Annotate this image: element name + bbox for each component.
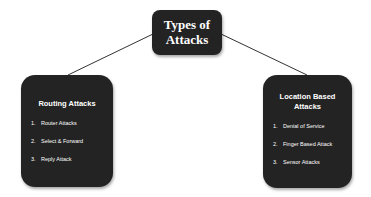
item-number: 3.: [273, 159, 283, 165]
item-number: 3.: [31, 156, 41, 162]
routing-attacks-list: 1.Router Attacks 2.Select & Forward 3.Re…: [21, 120, 113, 162]
root-node-types-of-attacks: Types of Attacks: [152, 10, 222, 55]
item-number: 1.: [31, 120, 41, 126]
list-item: 1.Denial of Service: [273, 123, 352, 129]
location-attacks-title: Location Based Attacks: [263, 92, 352, 112]
title-line2: Attacks: [263, 102, 352, 112]
node-location-based-attacks: Location Based Attacks 1.Denial of Servi…: [263, 75, 352, 188]
root-title-line2: Attacks: [152, 32, 222, 47]
item-label: Reply Attack: [41, 156, 72, 162]
item-number: 2.: [273, 141, 283, 147]
title-line1: Location Based: [263, 92, 352, 102]
root-title-line1: Types of: [152, 17, 222, 32]
item-number: 1.: [273, 123, 283, 129]
list-item: 3.Sensor Attacks: [273, 159, 352, 165]
item-label: Select & Forward: [41, 138, 83, 144]
item-label: Denial of Service: [283, 123, 325, 129]
connector-routing: [68, 34, 153, 75]
list-item: 2.Select & Forward: [31, 138, 113, 144]
item-label: Sensor Attacks: [283, 159, 320, 165]
location-attacks-list: 1.Denial of Service 2.Finger Based Attac…: [263, 123, 352, 165]
item-label: Router Attacks: [41, 120, 77, 126]
item-number: 2.: [31, 138, 41, 144]
list-item: 3.Reply Attack: [31, 156, 113, 162]
list-item: 1.Router Attacks: [31, 120, 113, 126]
connector-location: [221, 34, 307, 75]
node-routing-attacks: Routing Attacks 1.Router Attacks 2.Selec…: [21, 75, 113, 187]
routing-attacks-title: Routing Attacks: [21, 99, 113, 109]
list-item: 2.Finger Based Attack: [273, 141, 352, 147]
item-label: Finger Based Attack: [283, 141, 332, 147]
